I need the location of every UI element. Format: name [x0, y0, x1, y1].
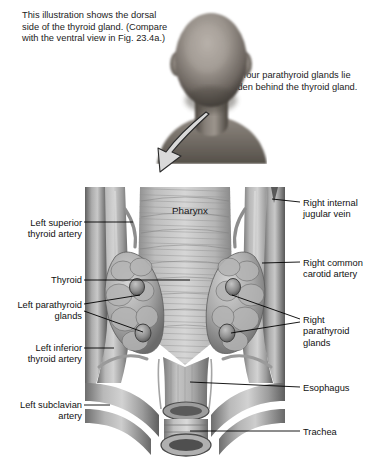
label-right-parathyroid-glands: Right parathyroid glands: [303, 315, 371, 349]
label-left-parathyroid-glands: Left parathyroid glands: [10, 300, 82, 323]
label-pharynx: Pharynx: [160, 205, 220, 216]
label-esophagus: Esophagus: [303, 383, 371, 394]
caption-left: This illustration shows the dorsal side …: [22, 10, 170, 45]
esophagus-lumen: [170, 406, 202, 416]
label-thyroid: Thyroid: [10, 275, 82, 286]
parathyroid-gland-inferior-right-image: [219, 324, 235, 342]
superior-thyroid-artery-right-image: [234, 209, 245, 247]
label-trachea: Trachea: [303, 427, 371, 438]
label-right-common-carotid-artery: Right common carotid artery: [303, 258, 371, 281]
nape-shadow: [185, 87, 237, 113]
parathyroid-gland-superior-left-image: [130, 279, 145, 296]
thyroid-illustration: [85, 187, 285, 459]
trachea-structure: [161, 419, 211, 456]
label-left-inferior-thyroid-artery: Left inferior thyroid artery: [10, 343, 82, 366]
label-right-internal-jugular-vein: Right internal jugular vein: [303, 198, 371, 221]
label-left-subclavian-artery: Left subclavian artery: [10, 400, 82, 423]
occipital-highlight: [187, 24, 227, 72]
parathyroid-gland-inferior-left-image: [135, 324, 151, 342]
trachea-lumen: [169, 439, 203, 451]
parathyroid-gland-superior-right-image: [226, 279, 241, 296]
esophagus-structure: [163, 357, 209, 420]
esophagus-body: [163, 357, 209, 409]
posterior-head-photo: [155, 4, 267, 164]
figure-root: This illustration shows the dorsal side …: [0, 0, 372, 459]
label-left-superior-thyroid-artery: Left superior thyroid artery: [10, 218, 82, 241]
